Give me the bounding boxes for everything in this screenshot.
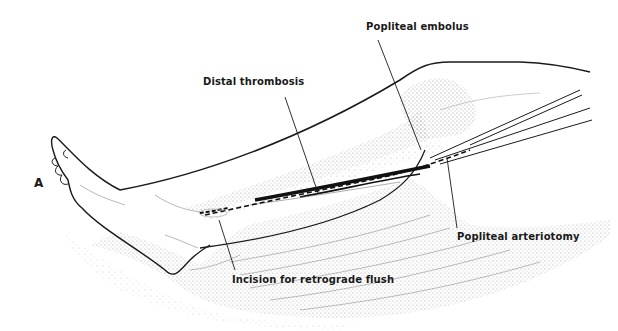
panel-letter: A [34, 176, 43, 190]
label-distal-thrombosis: Distal thrombosis [203, 76, 304, 87]
label-incision-retrograde-flush: Incision for retrograde flush [232, 274, 394, 285]
label-popliteal-embolus: Popliteal embolus [366, 21, 469, 32]
label-popliteal-arteriotomy: Popliteal arteriotomy [457, 231, 580, 242]
